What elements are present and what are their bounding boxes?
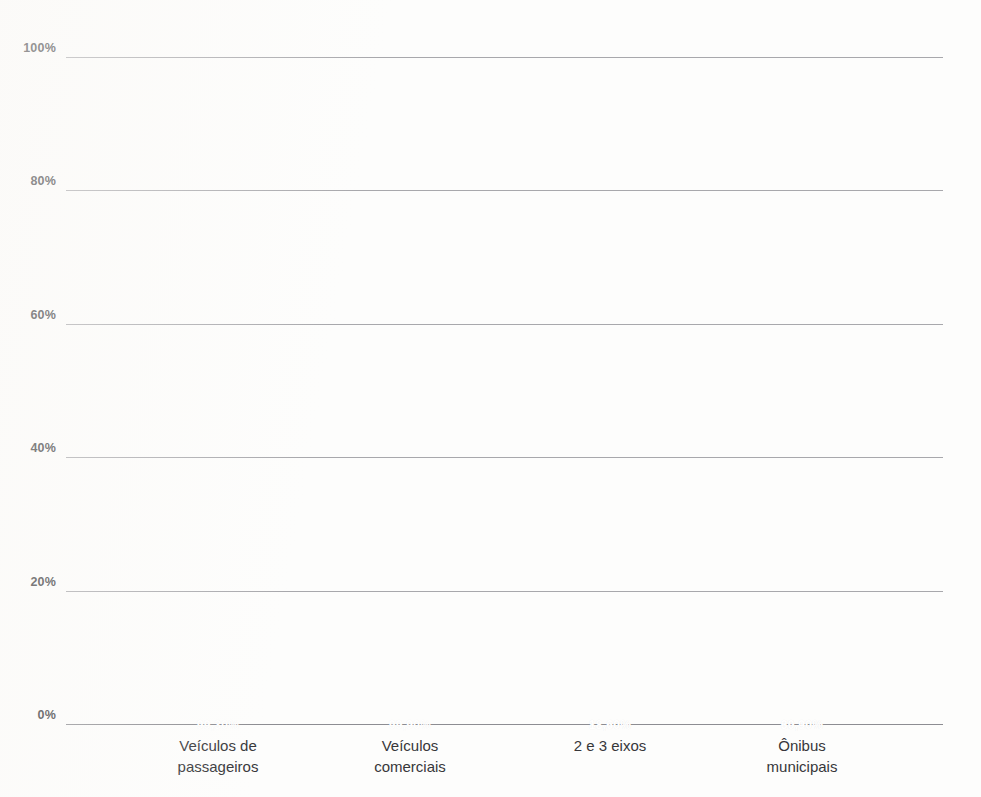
gridline-80: 80% (66, 190, 943, 191)
gridline-60: 60% (66, 324, 943, 325)
gridline-100: 100% (66, 57, 943, 58)
bar-label-top-0: 99,30% (197, 718, 240, 732)
ytick-label-100: 100% (23, 42, 56, 58)
bar-label-bottom-2: 18,60% (589, 718, 632, 732)
ytick-label-60: 60% (30, 308, 56, 324)
ytick-label-0: 0% (38, 709, 56, 725)
ytick-label-20: 20% (30, 575, 56, 591)
ytick-label-40: 40% (30, 442, 56, 458)
bar-label-bottom-3: 30,90% (781, 718, 824, 732)
bar-label-top-1: 99,90% (389, 718, 432, 732)
category-label-2: 2 e 3 eixos (510, 735, 710, 756)
category-label-1: Veículos comerciais (310, 735, 510, 778)
category-label-3: Ônibus municipais (702, 735, 902, 778)
gridline-20: 20% (66, 591, 943, 592)
stacked-bar-chart: 100% 80% 60% 40% 20% 0% 99,30% (0, 0, 981, 797)
plot-area: 100% 80% 60% 40% 20% 0% 99,30% (66, 58, 943, 725)
gridline-40: 40% (66, 457, 943, 458)
category-label-0: Veículos de passageiros (118, 735, 318, 778)
ytick-label-80: 80% (30, 175, 56, 191)
